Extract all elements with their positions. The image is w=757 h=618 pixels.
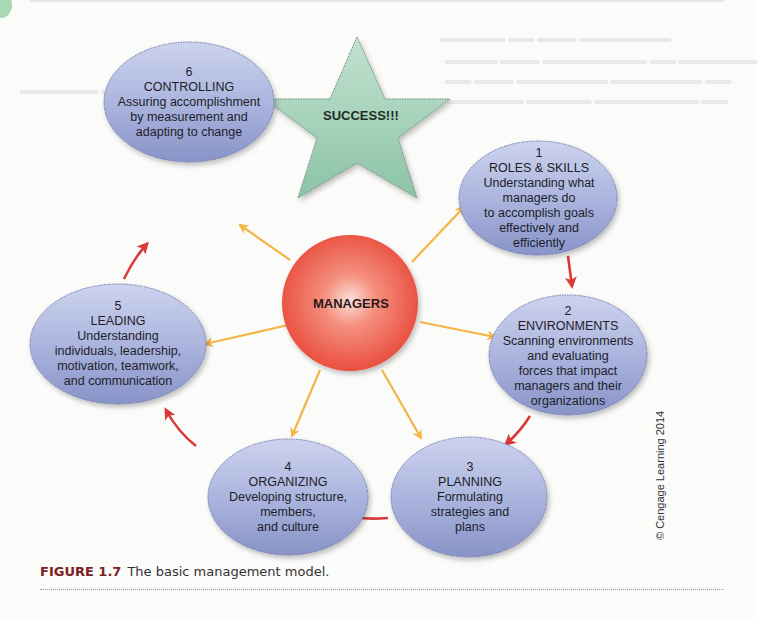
node-environments: 2 ENVIRONMENTS Scanning environments and… xyxy=(490,297,646,415)
node-roles-skills: 1 ROLES & SKILLS Understanding what mana… xyxy=(462,141,616,255)
node-desc-line: and communication xyxy=(64,374,172,389)
managers-label: MANAGERS xyxy=(313,296,389,311)
node-desc-line: strategies and xyxy=(431,505,510,520)
node-title: ENVIRONMENTS xyxy=(518,319,619,334)
node-desc-line: to accomplish goals xyxy=(484,206,594,221)
node-desc-line: effectively and xyxy=(499,221,579,236)
node-title: ROLES & SKILLS xyxy=(489,161,589,176)
success-label: SUCCESS!!! xyxy=(323,108,399,123)
node-desc-line: managers do xyxy=(503,191,576,206)
node-desc-line: efficiently xyxy=(513,236,565,251)
node-organizing: 4 ORGANIZING Developing structure, membe… xyxy=(208,440,368,554)
node-desc-line: motivation, teamwork, xyxy=(57,359,179,374)
node-planning: 3 PLANNING Formulating strategies and pl… xyxy=(392,440,548,554)
node-number: 5 xyxy=(115,299,122,314)
node-desc-line: and evaluating xyxy=(527,349,608,364)
figure-caption-text: The basic management model. xyxy=(127,564,329,579)
node-desc-line: Developing structure, xyxy=(229,490,347,505)
node-title: LEADING xyxy=(91,314,146,329)
node-desc-line: members, xyxy=(260,505,316,520)
node-desc-line: forces that impact xyxy=(519,364,618,379)
node-desc-line: individuals, leadership, xyxy=(55,344,181,359)
node-desc-line: adapting to change xyxy=(136,125,242,140)
node-desc-line: by measurement and xyxy=(130,110,247,125)
node-desc-line: plans xyxy=(455,520,485,535)
figure-caption: FIGURE 1.7The basic management model. xyxy=(40,564,329,579)
node-desc-line: Formulating xyxy=(437,490,503,505)
node-desc-line: Understanding xyxy=(77,329,158,344)
node-title: PLANNING xyxy=(438,475,502,490)
node-title: CONTROLLING xyxy=(144,80,234,95)
node-number: 4 xyxy=(285,460,292,475)
copyright-notice: © Cengage Learning 2014 xyxy=(654,411,666,540)
node-desc-line: organizations xyxy=(531,394,605,409)
node-controlling: 6 CONTROLLING Assuring accomplishment by… xyxy=(104,44,274,160)
node-number: 1 xyxy=(536,146,543,161)
node-desc-line: Assuring accomplishment xyxy=(118,95,260,110)
node-number: 3 xyxy=(467,460,474,475)
node-desc-line: Scanning environments xyxy=(503,334,634,349)
node-desc-line: and culture xyxy=(257,520,319,535)
figure-label: FIGURE 1.7 xyxy=(40,564,121,579)
node-leading: 5 LEADING Understanding individuals, lea… xyxy=(30,286,206,402)
node-number: 6 xyxy=(186,65,193,80)
node-desc-line: managers and their xyxy=(514,379,622,394)
node-number: 2 xyxy=(565,304,572,319)
caption-divider xyxy=(40,589,724,590)
node-title: ORGANIZING xyxy=(248,475,327,490)
node-desc-line: Understanding what xyxy=(483,176,594,191)
